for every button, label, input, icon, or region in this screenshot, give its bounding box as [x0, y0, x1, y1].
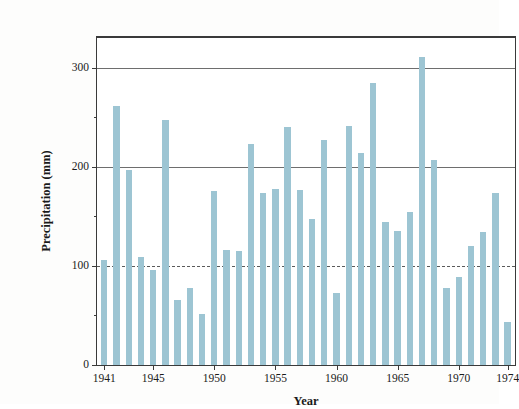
bar-1960	[333, 293, 339, 365]
y-tick-200	[92, 167, 97, 168]
x-tick-label-1970: 1970	[447, 373, 470, 385]
y-axis-title: Precipitation (mm)	[39, 150, 54, 251]
bar-1954	[260, 193, 266, 365]
y-tick-0	[92, 365, 97, 366]
x-tick-1970	[459, 365, 460, 370]
bar-1958	[309, 219, 315, 365]
y-tick-label-300: 300	[72, 62, 89, 74]
bar-1941	[101, 260, 107, 365]
x-tick-label-1941: 1941	[93, 373, 116, 385]
x-tick-label-1955: 1955	[264, 373, 287, 385]
bar-1969	[443, 288, 449, 365]
bar-1946	[162, 120, 168, 365]
bar-1945	[150, 270, 156, 365]
x-tick-1974	[508, 365, 509, 370]
bar-1972	[480, 232, 486, 365]
bar-1965	[394, 231, 400, 365]
x-tick-label-1945: 1945	[142, 373, 165, 385]
x-axis-title: Year	[294, 394, 319, 409]
bar-1962	[358, 153, 364, 365]
bars-layer	[97, 38, 515, 365]
bar-1967	[419, 57, 425, 365]
bar-1968	[431, 160, 437, 365]
bar-1944	[138, 257, 144, 365]
y-tick-minor-150	[94, 216, 98, 217]
bar-1966	[407, 212, 413, 365]
bar-1959	[321, 140, 327, 365]
x-tick-1955	[275, 365, 276, 370]
y-tick-minor-250	[94, 117, 98, 118]
y-tick-300	[92, 68, 97, 69]
x-tick-label-1960: 1960	[325, 373, 348, 385]
y-tick-minor-50	[94, 315, 98, 316]
x-tick-1950	[214, 365, 215, 370]
bar-1955	[272, 189, 278, 365]
y-tick-100	[92, 266, 97, 267]
bar-1948	[187, 288, 193, 365]
bar-1942	[113, 106, 119, 365]
bar-1971	[468, 246, 474, 365]
bar-1961	[346, 126, 352, 365]
x-tick-1965	[398, 365, 399, 370]
bar-1964	[382, 222, 388, 365]
bar-1973	[492, 193, 498, 365]
bar-1957	[297, 190, 303, 365]
x-tick-label-1950: 1950	[203, 373, 226, 385]
bar-1963	[370, 83, 376, 365]
precipitation-bar-chart: Precipitation (mm) 0100200300 1941194519…	[40, 16, 459, 388]
bar-1943	[126, 170, 132, 365]
bar-1953	[248, 144, 254, 365]
y-tick-label-200: 200	[72, 161, 89, 173]
bar-1947	[174, 300, 180, 365]
bar-1970	[456, 277, 462, 365]
bar-1974	[504, 322, 510, 365]
bar-1949	[199, 314, 205, 365]
bar-1950	[211, 191, 217, 365]
bar-1951	[223, 250, 229, 365]
x-tick-1945	[153, 365, 154, 370]
y-tick-label-100: 100	[72, 260, 89, 272]
x-tick-1960	[337, 365, 338, 370]
plot-area: 0100200300 19411945195019551960196519701…	[96, 36, 516, 366]
x-tick-1941	[104, 365, 105, 370]
y-tick-label-0: 0	[83, 359, 89, 371]
bar-1956	[284, 127, 290, 365]
bar-1952	[236, 251, 242, 365]
x-tick-label-1965: 1965	[386, 373, 409, 385]
x-tick-label-1974: 1974	[496, 373, 519, 385]
